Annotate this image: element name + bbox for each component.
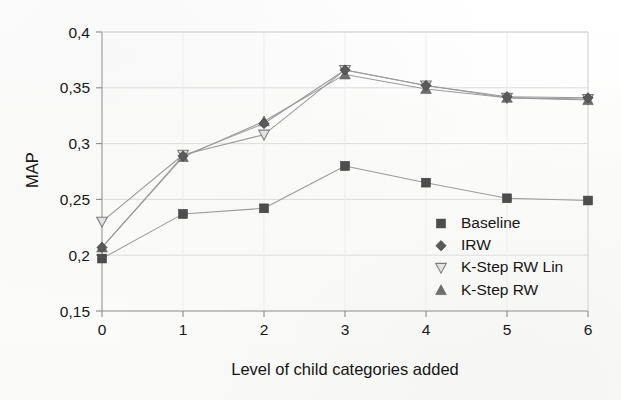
data-point-baseline — [584, 196, 593, 205]
data-point-baseline — [422, 178, 431, 187]
x-tick-label: 1 — [179, 321, 188, 338]
data-point-baseline — [341, 162, 350, 171]
legend-label: K-Step RW — [461, 281, 539, 298]
legend-item-k-step-rw-lin: K-Step RW Lin — [436, 258, 564, 275]
chart-page: 0,150,20,250,30,350,4 0123456 MAP Level … — [0, 0, 621, 400]
x-axis-tick-labels: 0123456 — [98, 321, 593, 338]
y-axis-tick-labels: 0,150,20,250,30,350,4 — [60, 24, 91, 320]
x-tick-label: 6 — [584, 321, 593, 338]
x-tick-label: 3 — [341, 321, 350, 338]
data-point-legend — [436, 241, 446, 251]
x-axis-title: Level of child categories added — [231, 360, 459, 378]
data-point-irw — [259, 118, 269, 128]
data-point-legend — [437, 219, 446, 228]
y-tick-label: 0,15 — [60, 303, 90, 320]
map-vs-level-line-chart: 0,150,20,250,30,350,4 0123456 MAP Level … — [0, 0, 621, 400]
y-axis-ticks — [96, 32, 102, 311]
data-point-baseline — [503, 194, 512, 203]
legend-item-irw: IRW — [436, 236, 491, 253]
y-tick-label: 0,25 — [60, 191, 90, 208]
data-point-legend — [436, 263, 447, 273]
y-tick-label: 0,4 — [68, 24, 90, 41]
legend-label: IRW — [461, 236, 491, 253]
data-point-baseline — [260, 204, 269, 213]
x-tick-label: 0 — [98, 321, 107, 338]
legend-item-k-step-rw: K-Step RW — [436, 281, 539, 298]
legend-item-baseline: Baseline — [437, 214, 521, 231]
x-axis-ticks — [102, 311, 588, 317]
y-tick-label: 0,3 — [68, 135, 90, 152]
data-point-k-step-rw-lin — [97, 217, 108, 227]
data-point-legend — [436, 285, 447, 295]
y-axis-title: MAP — [23, 152, 41, 188]
y-tick-label: 0,35 — [60, 79, 90, 96]
y-tick-label: 0,2 — [68, 247, 90, 264]
x-tick-label: 5 — [503, 321, 512, 338]
data-point-baseline — [179, 210, 188, 219]
data-point-baseline — [98, 254, 107, 263]
x-tick-label: 2 — [260, 321, 269, 338]
chart-legend: BaselineIRWK-Step RW LinK-Step RW — [436, 214, 564, 298]
legend-label: K-Step RW Lin — [461, 258, 563, 275]
legend-label: Baseline — [461, 214, 520, 231]
x-tick-label: 4 — [422, 321, 431, 338]
